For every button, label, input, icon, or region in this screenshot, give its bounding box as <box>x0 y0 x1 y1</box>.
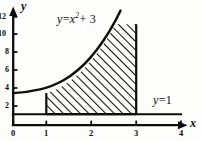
curve-equation-label: y=x2+ 3 <box>57 12 96 25</box>
y-tick-label-2: 2 <box>0 102 9 110</box>
graph-figure: 2 4 6 8 10 12 0 1 2 3 4 y x y=x2+ 3 y=1 <box>0 0 203 141</box>
curve-eq-equals: = <box>63 12 70 26</box>
x-tick-label-1: 1 <box>40 129 52 138</box>
curve-eq-plus-term: + 3 <box>79 12 96 26</box>
y-tick-label-10: 10 <box>0 30 6 38</box>
y-tick-label-6: 6 <box>0 66 9 74</box>
x-tick-label-3: 3 <box>130 129 142 138</box>
y-tick-label-4: 4 <box>0 84 9 92</box>
y-axis-arrowhead <box>9 7 17 17</box>
y-tick-label-12: 12 <box>0 13 6 21</box>
x-tick-label-2: 2 <box>85 129 97 138</box>
x-tick-label-0: 0 <box>7 129 19 138</box>
line-equation-label: y=1 <box>153 94 172 106</box>
x-tick-label-4: 4 <box>175 129 187 138</box>
shaded-region-hatching <box>40 18 144 120</box>
line-eq-rhs: 1 <box>166 93 172 107</box>
y-axis-label: y <box>21 0 26 12</box>
plot-canvas <box>0 0 203 141</box>
line-eq-equals: = <box>159 93 166 107</box>
x-axis-label: x <box>190 117 196 129</box>
y-tick-label-8: 8 <box>0 48 9 56</box>
